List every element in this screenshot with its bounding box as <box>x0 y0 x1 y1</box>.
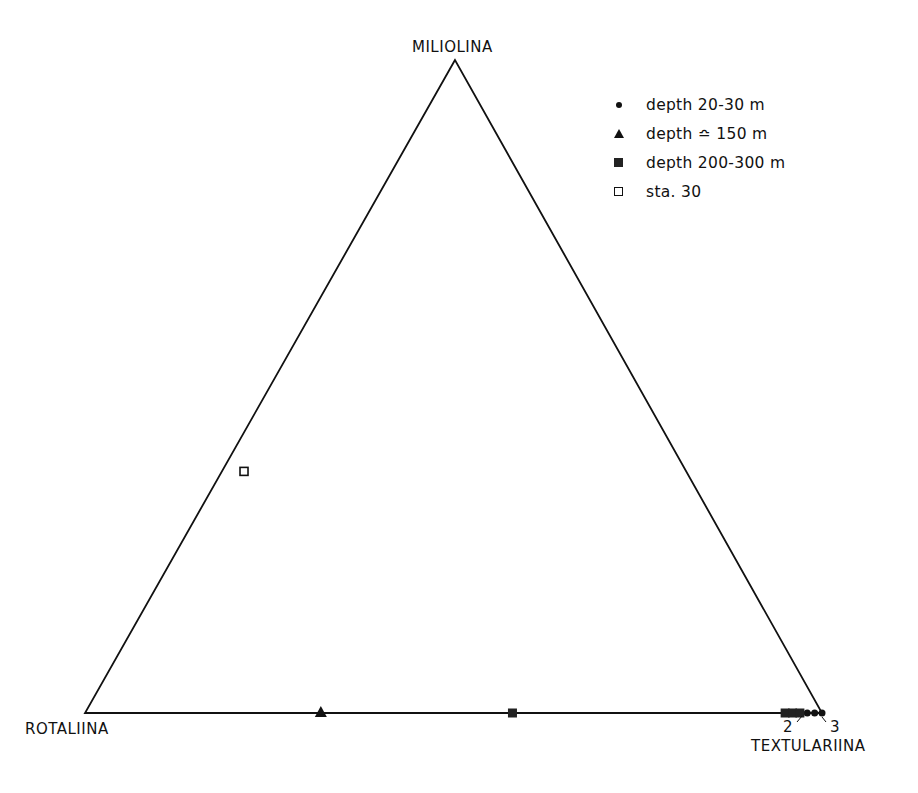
data-point <box>819 710 826 717</box>
open-square-icon <box>614 187 623 196</box>
legend-item-depth-20-30: depth 20-30 m <box>612 90 785 119</box>
legend: depth 20-30 m depth ≏ 150 m depth 200-30… <box>612 90 785 206</box>
data-point <box>811 710 818 717</box>
legend-label: depth ≏ 150 m <box>646 125 767 143</box>
data-point <box>508 709 517 718</box>
legend-item-depth-150: depth ≏ 150 m <box>612 119 785 148</box>
data-point <box>315 706 327 717</box>
annotation-3: 3 <box>830 718 840 736</box>
data-point <box>804 710 811 717</box>
legend-item-depth-200-300: depth 200-300 m <box>612 148 785 177</box>
leader-line-3 <box>822 717 826 722</box>
legend-label: sta. 30 <box>646 183 701 201</box>
data-point <box>240 467 248 475</box>
data-points <box>240 467 825 717</box>
vertex-label-miliolina: MILIOLINA <box>412 38 493 56</box>
vertex-label-rotaliina: ROTALIINA <box>25 720 109 738</box>
filled-square-icon <box>614 158 623 167</box>
filled-circle-icon <box>616 102 622 108</box>
legend-label: depth 20-30 m <box>646 96 765 114</box>
filled-triangle-icon <box>614 129 624 138</box>
legend-label: depth 200-300 m <box>646 154 785 172</box>
vertex-label-textulariina: TEXTULARIINA <box>751 737 866 755</box>
legend-item-sta-30: sta. 30 <box>612 177 785 206</box>
annotation-2: 2 <box>783 718 793 736</box>
data-point <box>795 709 804 718</box>
